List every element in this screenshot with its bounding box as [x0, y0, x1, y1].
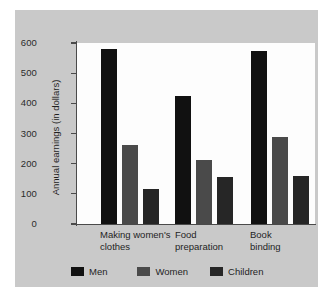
- y-axis-tick-label: 200: [0, 158, 37, 169]
- bar-children-1: [143, 189, 159, 224]
- bar-women-1: [122, 145, 138, 224]
- legend-label: Men: [89, 266, 107, 277]
- y-axis-tick-label: 100: [0, 188, 37, 199]
- bar-children-2: [217, 177, 233, 224]
- legend-label: Children: [228, 266, 263, 277]
- y-axis-tick-label: 400: [0, 97, 37, 108]
- x-axis-category-label: Book binding: [250, 229, 281, 252]
- bar-men-2: [175, 96, 191, 224]
- x-axis-category-label: Food preparation: [175, 229, 223, 252]
- bar-men-1: [101, 49, 117, 224]
- chart-legend: MenWomenChildren: [71, 266, 263, 277]
- x-axis-line: [76, 224, 316, 225]
- bar-women-2: [196, 160, 212, 224]
- legend-swatch-children: [210, 267, 223, 276]
- chart-figure-panel: 6005004003002001000 Annual earnings (in …: [15, 10, 318, 287]
- x-axis-category-label: Making women's clothes: [100, 229, 170, 252]
- legend-item-men[interactable]: Men: [71, 266, 107, 277]
- y-axis-tick-label: 600: [0, 37, 37, 48]
- legend-swatch-men: [71, 267, 84, 276]
- y-axis-title: Annual earnings (in dollars): [50, 53, 61, 223]
- legend-label: Women: [155, 266, 188, 277]
- bar-children-3: [293, 176, 309, 224]
- legend-item-children[interactable]: Children: [210, 266, 263, 277]
- y-axis-tick-label: 500: [0, 67, 37, 78]
- legend-swatch-women: [137, 267, 150, 276]
- bar-men-3: [251, 51, 267, 224]
- y-axis-tick-label: 300: [0, 128, 37, 139]
- bars-layer: [77, 43, 315, 224]
- bar-women-3: [272, 137, 288, 224]
- y-axis-tick-label: 0: [0, 218, 37, 229]
- legend-item-women[interactable]: Women: [137, 266, 188, 277]
